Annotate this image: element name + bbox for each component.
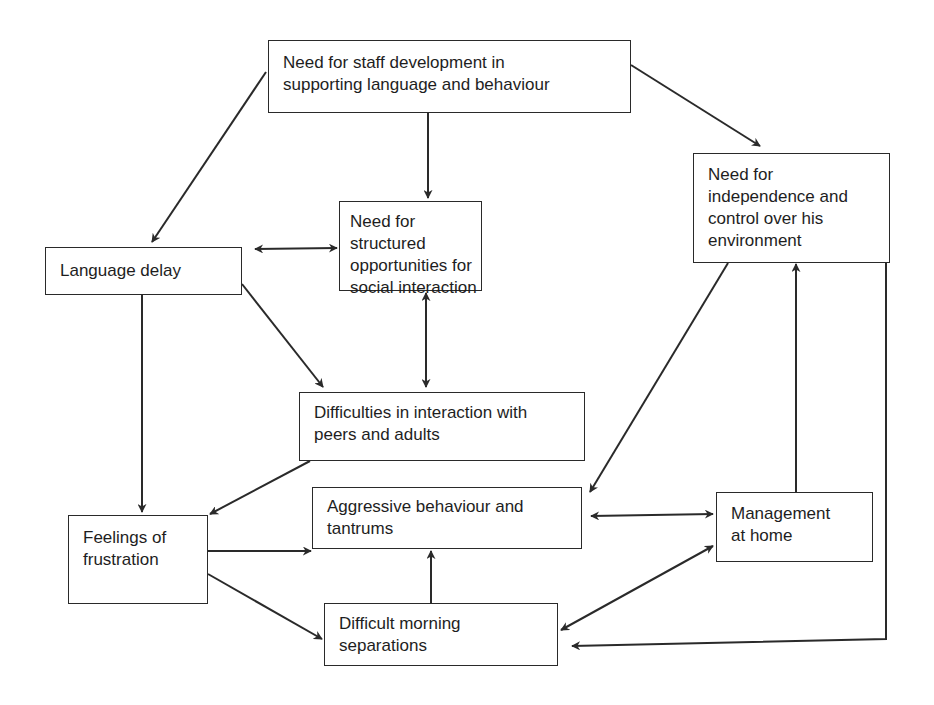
node-label: Aggressive behaviour and tantrums <box>327 496 567 540</box>
edge-independence-to-morning <box>572 262 886 646</box>
node-label: Need for independence and control over h… <box>708 164 875 252</box>
concept-diagram: Need for staff development in supporting… <box>0 0 934 705</box>
node-language-delay: Language delay <box>45 247 242 295</box>
node-feelings-frustration: Feelings of frustration <box>68 515 208 604</box>
node-label: Difficulties in interaction with peers a… <box>314 402 570 446</box>
node-difficulties-interaction: Difficulties in interaction with peers a… <box>299 392 585 461</box>
node-aggressive-behaviour: Aggressive behaviour and tantrums <box>312 487 582 549</box>
node-independence: Need for independence and control over h… <box>693 153 890 263</box>
node-label: Difficult morning separations <box>339 613 543 657</box>
edge-morning-management <box>561 546 713 630</box>
node-label: Need for staff development in supporting… <box>283 52 616 96</box>
edge-language-structured <box>255 248 337 249</box>
edge-feelings-to-morning <box>208 574 322 639</box>
edge-independence-to-aggressive <box>590 263 728 492</box>
edge-language-to-difficulties <box>242 284 323 387</box>
node-label: Management at home <box>731 503 858 547</box>
node-label: Language delay <box>60 260 227 282</box>
node-morning-separations: Difficult morning separations <box>324 603 558 666</box>
edge-aggressive-management <box>591 514 713 516</box>
edge-difficulties-to-feelings <box>210 461 310 514</box>
node-label: Feelings of frustration <box>83 527 193 571</box>
node-staff-development: Need for staff development in supporting… <box>268 40 631 113</box>
edge-staff-to-independence <box>631 65 760 146</box>
node-management-home: Management at home <box>716 492 873 562</box>
edge-staff-to-language <box>152 72 266 242</box>
node-structured-opportunities: Need for structured opportunities for so… <box>339 201 482 291</box>
node-label: Need for structured opportunities for so… <box>350 211 477 299</box>
